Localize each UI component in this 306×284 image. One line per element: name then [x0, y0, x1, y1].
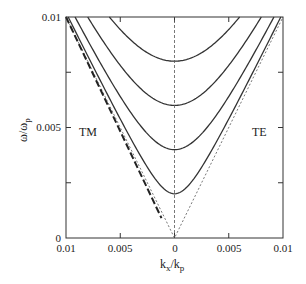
x-tick-label: 0.01: [56, 242, 75, 254]
y-tick-label: 0.01: [42, 11, 61, 23]
y-tick-label: 0.005: [36, 121, 61, 133]
tm-label: TM: [79, 125, 97, 139]
mode-4-curve: [109, 17, 239, 61]
dispersion-chart: 0 0.005 0.01 0.01 0.005 0 0.005 0.01 kx/…: [0, 0, 306, 284]
x-tick-label: 0: [172, 242, 178, 254]
plot-area: [66, 17, 283, 238]
x-tick-label: 0.01: [273, 242, 292, 254]
x-tick-label: 0.005: [108, 242, 133, 254]
te-label: TE: [252, 125, 267, 139]
y-axis-label: ω/ωp: [16, 118, 32, 142]
tm-surface-mode-line: [66, 17, 161, 218]
x-tick-label: 0.005: [217, 242, 242, 254]
x-axis-label: kx/kp: [160, 257, 185, 273]
